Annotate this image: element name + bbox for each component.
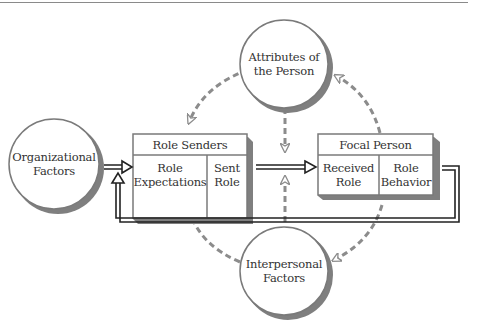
- label-interpersonal-factors: Interpersonal Factors: [240, 255, 328, 287]
- org-line1: Organizational: [12, 150, 96, 164]
- arrow-role-senders-to-focal: [256, 165, 307, 169]
- received-role-line1: Received: [318, 161, 379, 175]
- arrow-org-to-role-senders: [104, 165, 124, 169]
- label-attributes-of-person: Attributes of the Person: [240, 48, 328, 80]
- dashed-focal-to-interpersonal: [336, 205, 382, 259]
- attr-line1: Attributes of: [249, 50, 320, 64]
- sent-role-line1: Sent: [207, 161, 247, 175]
- cell-received-role: Received Role: [318, 161, 379, 189]
- org-line2: Factors: [12, 164, 96, 178]
- inter-line2: Factors: [246, 271, 323, 285]
- cell-role-behavior: Role Behavior: [379, 161, 433, 189]
- attr-line2: the Person: [249, 64, 320, 78]
- cell-sent-role: Sent Role: [207, 161, 247, 189]
- role-expectations-line1: Role: [133, 161, 207, 175]
- role-behavior-line2: Behavior: [379, 175, 433, 189]
- inter-line1: Interpersonal: [246, 257, 323, 271]
- cell-role-expectations: Role Expectations: [133, 161, 207, 189]
- received-role-line2: Role: [318, 175, 379, 189]
- dashed-focal-to-attributes: [338, 77, 380, 133]
- focal-person-title: Focal Person: [318, 138, 433, 152]
- role-expectations-line2: Expectations: [133, 175, 207, 189]
- label-organizational-factors: Organizational Factors: [9, 148, 99, 180]
- sent-role-line2: Role: [207, 175, 247, 189]
- role-senders-title: Role Senders: [133, 138, 247, 152]
- role-behavior-line1: Role: [379, 161, 433, 175]
